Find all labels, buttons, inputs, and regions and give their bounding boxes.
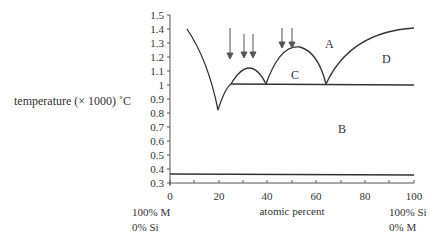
svg-text:0: 0 bbox=[167, 190, 173, 202]
svg-text:0.4: 0.4 bbox=[150, 163, 164, 175]
region-a-label: A bbox=[325, 37, 334, 51]
svg-text:40: 40 bbox=[262, 190, 274, 202]
svg-text:1: 1 bbox=[159, 79, 165, 91]
liquidus-left bbox=[187, 29, 218, 110]
left-composition-2: 0% Si bbox=[132, 221, 159, 233]
phase-diagram: temperature (× 1000) ˚C 1.5 1.4 1.3 1.2 … bbox=[0, 0, 442, 242]
arrow-head-icon bbox=[279, 42, 285, 48]
svg-text:60: 60 bbox=[311, 190, 323, 202]
region-c-label: C bbox=[291, 68, 299, 82]
svg-text:0.8: 0.8 bbox=[150, 107, 164, 119]
svg-text:0.9: 0.9 bbox=[150, 93, 164, 105]
solidus-left-branch bbox=[218, 84, 231, 110]
svg-text:1.1: 1.1 bbox=[150, 65, 164, 77]
right-composition-2: 0% M bbox=[389, 221, 416, 233]
svg-text:80: 80 bbox=[360, 190, 372, 202]
phase-boundaries bbox=[170, 28, 414, 175]
svg-text:1.5: 1.5 bbox=[150, 9, 164, 21]
y-tick-labels: 1.5 1.4 1.3 1.2 1.1 1 0.9 0.8 0.7 0.6 0.… bbox=[150, 9, 164, 189]
y-axis-label: temperature (× 1000) ˚C bbox=[14, 94, 131, 108]
low-temp-line bbox=[170, 174, 414, 175]
svg-text:1.2: 1.2 bbox=[150, 51, 164, 63]
svg-text:0.5: 0.5 bbox=[150, 149, 164, 161]
svg-text:0.6: 0.6 bbox=[150, 135, 164, 147]
eutectic-line bbox=[231, 84, 414, 85]
right-composition-1: 100% Si bbox=[389, 206, 427, 218]
left-composition-1: 100% M bbox=[132, 206, 170, 218]
arrows bbox=[227, 28, 295, 59]
x-axis-label: atomic percent bbox=[259, 205, 324, 217]
liquidus-right bbox=[326, 28, 414, 84]
svg-text:100: 100 bbox=[406, 190, 423, 202]
svg-text:20: 20 bbox=[214, 190, 226, 202]
liquidus-dome-1 bbox=[231, 68, 266, 84]
arrow-head-icon bbox=[241, 52, 247, 58]
svg-text:0.3: 0.3 bbox=[150, 177, 164, 189]
svg-text:0.7: 0.7 bbox=[150, 121, 164, 133]
arrow-head-icon bbox=[227, 53, 233, 59]
arrow-head-icon bbox=[250, 52, 256, 58]
svg-text:1.3: 1.3 bbox=[150, 37, 164, 49]
region-b-label: B bbox=[338, 122, 346, 136]
region-d-label: D bbox=[382, 52, 391, 66]
svg-text:1.4: 1.4 bbox=[150, 23, 164, 35]
x-tick-labels: 0 20 40 60 80 100 bbox=[167, 190, 423, 202]
